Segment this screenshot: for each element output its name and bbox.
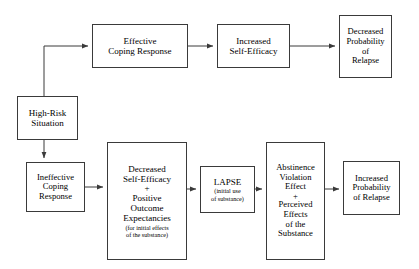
node-lapse[interactable]: LAPSE (initial use of substance): [200, 166, 255, 213]
node-line: Relapse: [352, 56, 379, 66]
node-decreased-probability-of-relapse[interactable]: Decreased Probability of Relapse: [339, 15, 392, 78]
node-increased-self-efficacy[interactable]: Increased Self-Efficacy: [217, 24, 290, 68]
plus-symbol: +: [144, 184, 149, 193]
node-line: Outcome: [131, 203, 164, 213]
node-note-line: (for initial effects: [125, 224, 168, 231]
node-abstinence-violation-effect-perceived-effects[interactable]: Abstinence Violation Effect + Perceived …: [266, 142, 325, 260]
node-line: of Relapse: [353, 193, 390, 203]
node-line: Positive: [132, 193, 161, 203]
node-line: Expectancies: [123, 213, 170, 223]
node-line: High-Risk: [29, 108, 67, 118]
node-high-risk-situation[interactable]: High-Risk Situation: [17, 96, 78, 140]
node-line: Response: [39, 192, 72, 202]
node-effective-coping-response[interactable]: Effective Coping Response: [92, 24, 188, 68]
node-increased-probability-of-relapse[interactable]: Increased Probability of Relapse: [343, 161, 400, 215]
node-note-line: of the substance): [126, 231, 168, 238]
node-line: Coping Response: [108, 46, 171, 56]
node-line: Situation: [31, 118, 64, 128]
edge-high-risk-to-effective-coping: [44, 46, 88, 96]
flowchart-canvas: High-Risk Situation Effective Coping Res…: [0, 0, 419, 269]
node-line: Effective: [124, 36, 157, 46]
node-ineffective-coping-response[interactable]: Ineffective Coping Response: [26, 162, 85, 212]
node-line: LAPSE: [214, 177, 242, 187]
node-line: Substance: [278, 229, 313, 239]
node-line: Self-Efficacy: [230, 46, 278, 56]
node-note-line: (initial use: [214, 187, 240, 194]
node-line: Increased: [236, 36, 270, 46]
node-note-line: of substance): [211, 195, 244, 202]
node-decreased-self-efficacy-positive-outcome-expectancies[interactable]: Decreased Self-Efficacy + Positive Outco…: [107, 142, 187, 260]
node-line: Decreased: [128, 164, 165, 174]
